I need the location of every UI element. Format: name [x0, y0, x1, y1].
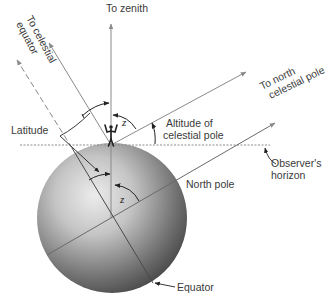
latitude-arc-upper: [82, 103, 109, 116]
equator-leader: [155, 283, 175, 287]
label-latitude: Latitude: [11, 124, 49, 136]
latitude-leader-upper: [60, 113, 90, 136]
celestial-pole-diagram: To zenith To celestial equator To north …: [0, 0, 333, 302]
altitude-arc: [152, 123, 155, 144]
label-z-lower: z: [119, 193, 125, 205]
label-altitude-1: Altitude of: [166, 117, 213, 129]
label-horizon-1: Observer's: [271, 157, 321, 169]
label-z-upper: z: [121, 116, 127, 128]
label-horizon-2: horizon: [271, 169, 306, 181]
label-north-pole: North pole: [186, 178, 235, 190]
earth-sphere: [37, 143, 187, 293]
label-altitude-2: celestial pole: [163, 129, 224, 141]
label-equator: Equator: [177, 281, 214, 293]
label-to-zenith: To zenith: [106, 2, 148, 14]
